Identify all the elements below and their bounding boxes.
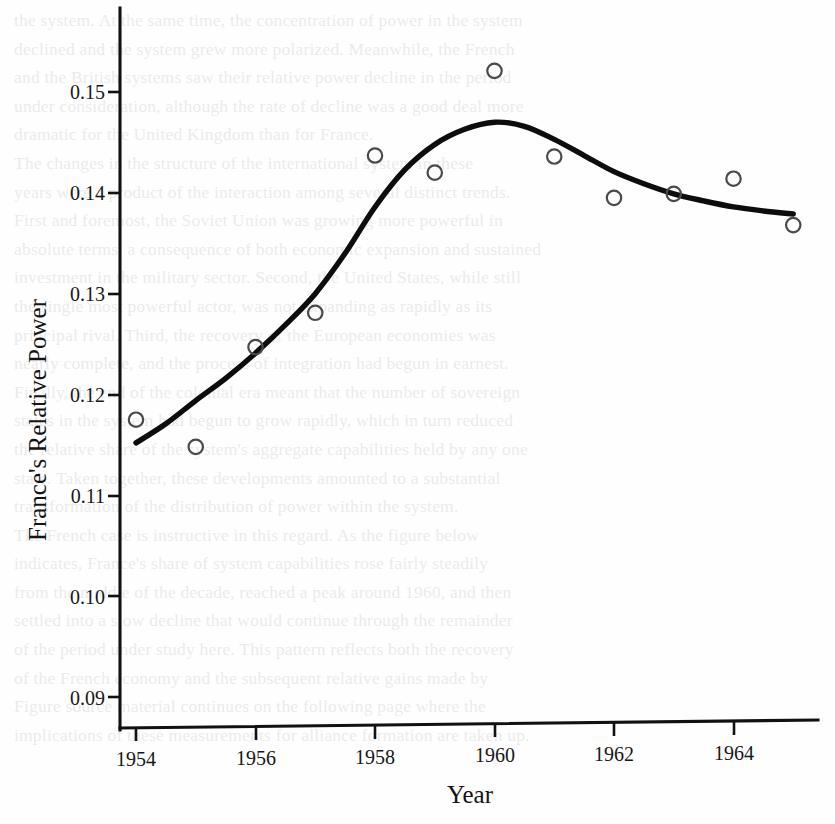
x-tick-label: 1954: [116, 748, 156, 770]
data-point-marker: [189, 440, 203, 454]
x-tick-label: 1960: [475, 744, 515, 766]
data-point-marker: [547, 149, 561, 163]
data-point-marker: [308, 306, 322, 320]
x-axis-tick-labels: 1954 1956 1958 1960 1962 1964: [116, 742, 754, 770]
x-axis-title-text: Year: [447, 781, 494, 808]
data-point-marker: [368, 148, 382, 162]
y-axis-title: France's Relative Power: [24, 298, 51, 541]
scanned-page: the system. At the same time, the concen…: [0, 0, 835, 824]
data-point-marker: [607, 191, 621, 205]
data-point-markers: [129, 64, 801, 454]
x-tick-label: 1958: [355, 746, 395, 768]
y-axis-tick-marks: [108, 92, 120, 697]
y-axis-tick-labels: 0.15 0.14 0.13 0.12 0.11 0.10 0.09: [70, 81, 105, 709]
data-point-marker: [428, 165, 442, 179]
data-point-marker: [487, 64, 501, 78]
x-tick-label: 1962: [594, 743, 634, 765]
trend-line: [136, 122, 793, 443]
data-point-marker: [129, 413, 143, 427]
x-axis-line: [120, 720, 818, 728]
line-scatter-chart: France's Relative Power 0.15 0.14 0.13 0…: [0, 0, 835, 824]
y-tick-label: 0.14: [70, 182, 105, 204]
data-point-marker: [726, 172, 740, 186]
y-tick-label: 0.09: [70, 687, 105, 709]
y-tick-label: 0.13: [70, 283, 105, 305]
x-tick-label: 1956: [236, 747, 276, 769]
y-tick-label: 0.15: [70, 81, 105, 103]
y-axis-title-text: France's Relative Power: [24, 298, 51, 541]
data-point-marker: [786, 218, 800, 232]
y-tick-label: 0.10: [70, 586, 105, 608]
y-tick-label: 0.11: [71, 485, 105, 507]
y-tick-label: 0.12: [70, 384, 105, 406]
x-tick-label: 1964: [714, 742, 754, 764]
